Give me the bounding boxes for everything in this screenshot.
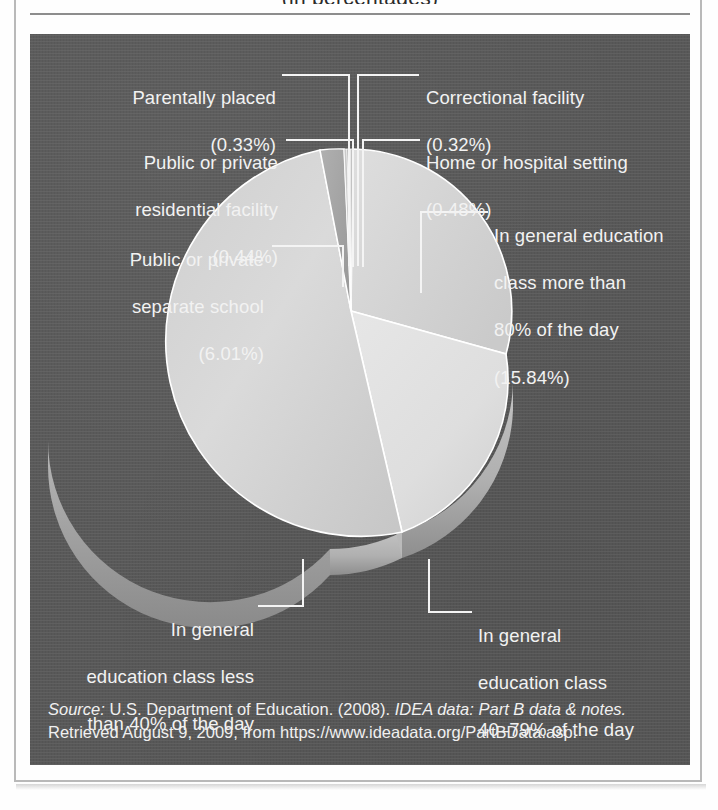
- leader-residential-horizontal: [286, 139, 354, 141]
- chart-panel: Parentally placed (0.33%) Correctional f…: [30, 34, 690, 765]
- callout-gen-ed-less-40-line4: (48.95%): [46, 760, 254, 765]
- callout-gen-ed-less-40-line1: In general: [46, 618, 254, 642]
- callout-gen-ed-40-79-line1: In general: [478, 624, 678, 648]
- leader-separate-school-horizontal: [272, 245, 344, 247]
- leader-parentally-placed-vertical: [348, 74, 350, 266]
- page-frame-left: [14, 0, 16, 782]
- callout-separate-school-line3: (6.01%): [54, 342, 264, 366]
- leader-gen-ed-40-79-vertical: [428, 559, 430, 613]
- title-divider-rule: [30, 13, 690, 15]
- callout-gen-ed-80: In general education class more than 80%…: [494, 200, 684, 413]
- callout-separate-school-line1: Public or private: [54, 248, 264, 272]
- leader-correctional-horizontal: [357, 74, 419, 76]
- callout-separate-school-line2: separate school: [54, 295, 264, 319]
- callout-gen-ed-less-40-line2: education class less: [46, 665, 254, 689]
- leader-gen-ed-40-79-horizontal: [428, 611, 472, 613]
- source-note-line1: Source: U.S. Department of Education. (2…: [48, 698, 672, 721]
- source-note-line2: Retrieved August 9, 2009, from https://w…: [48, 721, 672, 744]
- page-frame-right: [700, 0, 702, 782]
- figure-title-clipped: (in percentages): [30, 0, 690, 4]
- leader-home-hospital-horizontal: [362, 139, 420, 141]
- callout-gen-ed-80-line3: 80% of the day: [494, 318, 684, 342]
- callout-gen-ed-80-line4: (15.84%): [494, 366, 684, 390]
- callout-home-hospital-line1: Home or hospital setting: [426, 151, 680, 175]
- callout-gen-ed-80-line1: In general education: [494, 224, 684, 248]
- leader-correctional-vertical: [357, 74, 359, 266]
- source-text-a: U.S. Department of Education. (2008).: [109, 700, 394, 718]
- source-label: Source:: [48, 700, 105, 718]
- source-title-italic: IDEA data: Part B data & notes.: [395, 700, 626, 718]
- source-note: Source: U.S. Department of Education. (2…: [48, 698, 672, 745]
- callout-separate-school: Public or private separate school (6.01%…: [54, 224, 264, 390]
- callout-gen-ed-80-line2: class more than: [494, 271, 684, 295]
- callout-correctional-line1: Correctional facility: [426, 86, 666, 110]
- figure-page: (in percentages): [0, 0, 718, 810]
- callout-residential-line2: residential facility: [70, 198, 278, 222]
- page-edge-shadow: [16, 784, 706, 790]
- leader-gen-ed-less-40-vertical: [302, 559, 304, 607]
- callout-gen-ed-40-79-line2: education class: [478, 671, 678, 695]
- pie-rim-front: [330, 532, 402, 575]
- leader-gen-ed-less-40-horizontal: [258, 605, 304, 607]
- callout-parentally-placed-line1: Parentally placed: [90, 86, 276, 110]
- leader-separate-school-vertical: [342, 245, 344, 287]
- leader-gen-ed-80-vertical: [420, 211, 422, 293]
- page-frame-bottom: [14, 780, 702, 782]
- leader-parentally-placed-horizontal: [282, 74, 350, 76]
- leader-residential-vertical: [352, 139, 354, 267]
- leader-home-hospital-vertical: [362, 139, 364, 267]
- callout-residential-line1: Public or private: [70, 151, 278, 175]
